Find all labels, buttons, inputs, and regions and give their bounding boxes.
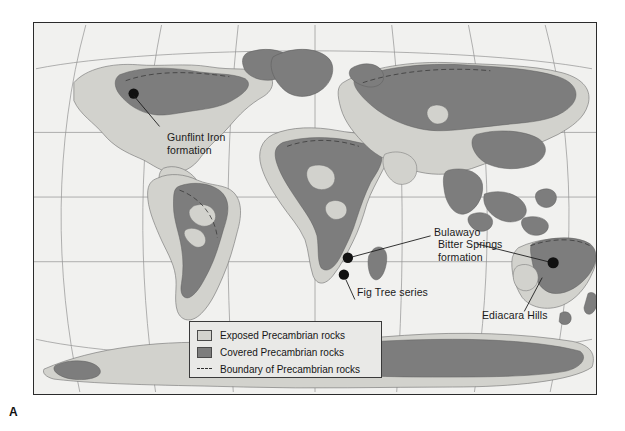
exposed-rocks-swatch [197, 330, 212, 341]
panel-letter: A [9, 405, 18, 419]
legend-label-boundary: Boundary of Precambrian rocks [220, 364, 360, 375]
legend-label-covered: Covered Precambrian rocks [220, 347, 344, 358]
dot-ediacara [548, 257, 559, 268]
boundary-line-symbol [197, 368, 212, 370]
world-map: Exposed Precambrian rocks Covered Precam… [33, 22, 597, 395]
figure-panel: Exposed Precambrian rocks Covered Precam… [0, 0, 625, 431]
dot-fig-tree [339, 269, 349, 279]
dot-bulawayo [343, 253, 353, 263]
legend-item-covered: Covered Precambrian rocks [197, 344, 375, 360]
covered-rocks-swatch [197, 347, 212, 358]
label-fig-tree-series: Fig Tree series [357, 286, 428, 299]
legend-item-exposed: Exposed Precambrian rocks [197, 327, 375, 343]
label-bitter-springs-formation: Bitter Springs formation [438, 238, 502, 263]
label-gunflint-iron-formation: Gunflint Iron formation [167, 131, 226, 156]
legend-label-exposed: Exposed Precambrian rocks [220, 330, 345, 341]
label-ediacara-hills: Ediacara Hills [482, 309, 548, 322]
legend-item-boundary: Boundary of Precambrian rocks [197, 361, 375, 377]
map-legend: Exposed Precambrian rocks Covered Precam… [189, 321, 382, 378]
label-bulawayo: Bulawayo [434, 226, 480, 239]
dot-gunflint [128, 88, 138, 98]
